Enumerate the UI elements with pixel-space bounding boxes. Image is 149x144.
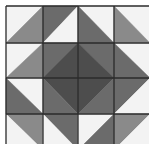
quilt-cell: [43, 43, 78, 78]
quilt-cell: [114, 78, 149, 114]
quilt-cell: [78, 114, 114, 144]
quilt-cell: [43, 78, 78, 114]
quilt-cell: [114, 6, 149, 43]
quilt-cell: [6, 6, 43, 43]
quilt-cell: [78, 43, 114, 78]
quilt-cell: [114, 43, 149, 78]
quilt-cell: [78, 6, 114, 43]
quilt-cell: [6, 43, 43, 78]
quilt-cell: [114, 114, 149, 144]
quilt-cell: [43, 6, 78, 43]
quilt-cell: [43, 114, 78, 144]
quilt-cell: [6, 78, 43, 114]
quilt-cell: [78, 78, 114, 114]
quilt-cell: [6, 114, 43, 144]
quilt-pattern: [0, 0, 149, 144]
